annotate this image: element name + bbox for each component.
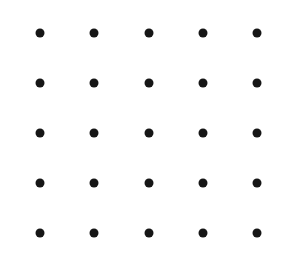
- grid-dot: [253, 179, 262, 188]
- grid-dot: [145, 79, 154, 88]
- grid-dot: [199, 29, 208, 38]
- grid-dot: [36, 79, 45, 88]
- grid-dot: [253, 29, 262, 38]
- grid-dot: [199, 229, 208, 238]
- grid-dot: [199, 79, 208, 88]
- grid-dot: [90, 29, 99, 38]
- grid-dot: [253, 79, 262, 88]
- grid-dot: [36, 179, 45, 188]
- grid-dot: [90, 229, 99, 238]
- grid-dot: [253, 229, 262, 238]
- grid-dot: [90, 179, 99, 188]
- dot-grid-layer: [0, 0, 298, 270]
- grid-dot: [36, 229, 45, 238]
- grid-dot: [145, 29, 154, 38]
- grid-dot: [199, 179, 208, 188]
- dot-grid-canvas: [0, 0, 298, 270]
- grid-dot: [145, 229, 154, 238]
- grid-dot: [36, 129, 45, 138]
- grid-dot: [90, 129, 99, 138]
- grid-dot: [90, 79, 99, 88]
- grid-dot: [253, 129, 262, 138]
- grid-dot: [145, 179, 154, 188]
- grid-dot: [36, 29, 45, 38]
- grid-dot: [145, 129, 154, 138]
- grid-dot: [199, 129, 208, 138]
